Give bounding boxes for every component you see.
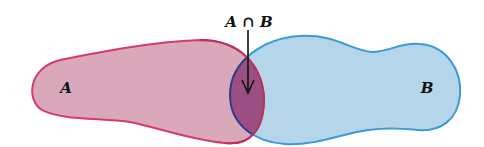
venn-diagram: A ∩ B A B (0, 0, 484, 147)
set-b-label: B (420, 79, 434, 97)
set-a-label: A (58, 79, 72, 97)
intersection-label: A ∩ B (223, 13, 272, 31)
